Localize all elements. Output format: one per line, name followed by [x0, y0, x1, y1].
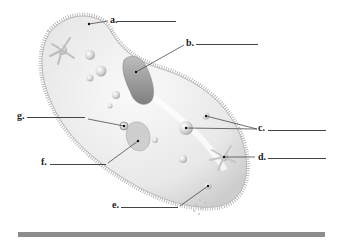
blank-b[interactable] — [196, 44, 258, 45]
label-b: b. — [186, 38, 194, 48]
label-e: e. — [112, 200, 119, 210]
blank-g[interactable] — [27, 117, 85, 118]
label-a: a. — [110, 15, 118, 25]
label-d: d. — [258, 152, 266, 162]
label-c: c. — [258, 123, 265, 133]
blank-c[interactable] — [268, 130, 326, 131]
blank-e[interactable] — [121, 207, 178, 208]
divider-bar — [18, 232, 325, 237]
blank-a[interactable] — [117, 21, 176, 22]
blank-f[interactable] — [50, 164, 106, 165]
label-f: f. — [41, 157, 47, 167]
blank-d[interactable] — [268, 158, 326, 159]
label-g: g. — [17, 111, 25, 121]
